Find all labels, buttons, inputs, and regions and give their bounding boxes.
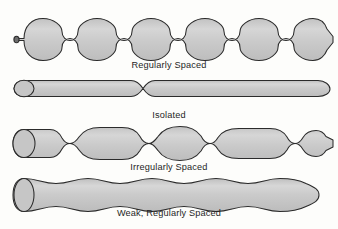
left-stub-cap-icon [14,36,19,42]
shape-isolated [14,80,330,96]
tube-open-end-cap-icon [14,80,34,96]
tube-open-end-cap-icon [14,179,34,212]
shape-irregularly-spaced [13,127,333,161]
shape-regularly-spaced [14,19,333,61]
bead-morphology-figure: Regularly Spaced Isolated Irregularly Sp… [0,0,338,229]
tube-open-end-cap-icon [13,130,35,158]
morphology-shapes-svg [0,0,338,229]
shape-weak-regularly-spaced [13,179,319,212]
